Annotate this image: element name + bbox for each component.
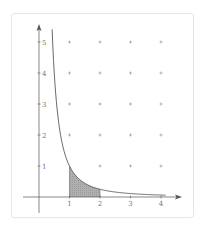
plus-marker-icon bbox=[160, 165, 163, 168]
grid-markers bbox=[68, 41, 163, 168]
y-axis bbox=[37, 24, 42, 213]
shaded-integral-region bbox=[70, 166, 101, 197]
x-tick-label: 3 bbox=[128, 200, 132, 208]
plus-marker-icon bbox=[160, 41, 163, 44]
plus-marker-icon bbox=[68, 103, 71, 106]
plus-marker-icon bbox=[129, 134, 132, 137]
y-tick-label: 5 bbox=[42, 39, 46, 47]
curve-one-over-x-squared bbox=[52, 29, 165, 195]
plus-marker-icon bbox=[68, 72, 71, 75]
x-tick-label: 2 bbox=[98, 200, 102, 208]
x-tick-label: 4 bbox=[159, 200, 164, 208]
plus-marker-icon bbox=[99, 165, 102, 168]
plus-marker-icon bbox=[160, 103, 163, 106]
y-tick-label: 3 bbox=[42, 101, 46, 109]
x-ticks: 1234 bbox=[67, 196, 164, 209]
plus-marker-icon bbox=[68, 41, 71, 44]
plus-marker-icon bbox=[99, 72, 102, 75]
plus-marker-icon bbox=[99, 134, 102, 137]
plus-marker-icon bbox=[129, 103, 132, 106]
x-tick-label: 1 bbox=[67, 200, 71, 208]
y-tick-label: 1 bbox=[42, 163, 46, 171]
y-tick-label: 4 bbox=[42, 70, 47, 78]
plus-marker-icon bbox=[160, 134, 163, 137]
plus-marker-icon bbox=[129, 72, 132, 75]
plus-marker-icon bbox=[129, 41, 132, 44]
plus-marker-icon bbox=[99, 103, 102, 106]
y-tick-label: 2 bbox=[42, 132, 46, 140]
plus-marker-icon bbox=[129, 165, 132, 168]
plus-marker-icon bbox=[68, 134, 71, 137]
chart-plot: 1234 12345 bbox=[0, 0, 209, 233]
plus-marker-icon bbox=[160, 72, 163, 75]
plus-marker-icon bbox=[99, 41, 102, 44]
